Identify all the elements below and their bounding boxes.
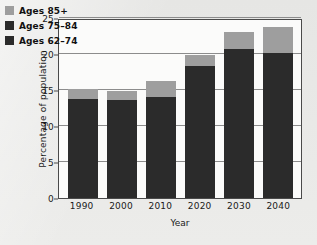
legend-swatch-icon [5,36,14,45]
x-tick-label: 2010 [145,201,175,215]
y-tick-label: 0 [14,194,54,204]
bar-segment-ages-85-plus [224,32,254,49]
bar-segment-ages-75-84 [107,100,137,130]
bar-segment-ages-62-74 [224,91,254,198]
y-tick-label: 20 [14,50,54,60]
bar-group [59,20,301,198]
bar-segment-ages-62-74 [146,127,176,198]
bar-segment-ages-75-84 [185,66,215,102]
x-axis-ticks: 199020002010202020302040 [58,201,302,215]
y-tick-label: 10 [14,122,54,132]
legend-label: Ages 62–74 [19,36,78,46]
bar-segment-ages-85-plus [263,27,293,52]
y-tick-label: 15 [14,86,54,96]
x-tick-label: 2030 [224,201,254,215]
bar-segment-ages-75-84 [146,97,176,127]
bar-segment-ages-85-plus [146,81,176,96]
legend-item: Ages 62–74 [5,34,78,47]
bar-segment-ages-62-74 [68,129,98,198]
chart-figure: Percentage of population 0510152025 1990… [0,0,317,245]
legend-label: Ages 85+ [19,6,68,16]
y-tick-label: 5 [14,158,54,168]
x-tick-label: 2040 [263,201,293,215]
bar-2040 [263,27,293,198]
bar-segment-ages-75-84 [224,49,254,91]
bar-1990 [68,89,98,198]
plot-area [58,19,302,199]
bar-segment-ages-62-74 [263,98,293,198]
legend-swatch-icon [5,21,14,30]
bar-segment-ages-75-84 [68,99,98,129]
legend-item: Ages 75–84 [5,19,78,32]
chart-legend: Ages 85+Ages 75–84Ages 62–74 [5,4,78,47]
legend-label: Ages 75–84 [19,21,78,31]
bar-2020 [185,55,215,198]
bar-segment-ages-85-plus [107,91,137,100]
bar-2000 [107,91,137,198]
bar-2030 [224,32,254,198]
x-axis-title: Year [58,218,302,228]
bar-segment-ages-85-plus [185,55,215,65]
bar-segment-ages-62-74 [185,102,215,198]
legend-swatch-icon [5,6,14,15]
gridline [59,17,301,18]
x-tick-label: 2000 [106,201,136,215]
bar-segment-ages-62-74 [107,130,137,198]
bar-segment-ages-75-84 [263,53,293,98]
legend-item: Ages 85+ [5,4,78,17]
x-tick-label: 1990 [67,201,97,215]
bar-2010 [146,81,176,198]
x-tick-label: 2020 [185,201,215,215]
bar-segment-ages-85-plus [68,89,98,98]
